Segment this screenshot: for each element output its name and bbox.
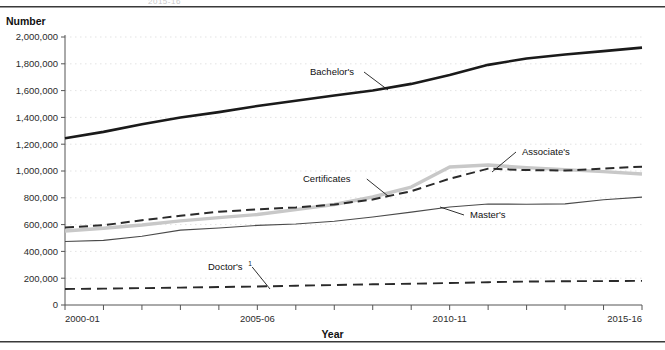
x-axis-tick-label: 2005-06 [240, 313, 275, 324]
x-axis-tick-label: 2010-11 [433, 313, 467, 324]
y-axis-tick-label: 1,200,000 [16, 139, 58, 150]
x-axis-tick-label: 2015-16 [607, 313, 642, 324]
annotations: Bachelor'sCertificatesAssociate'sMaster'… [208, 66, 570, 289]
y-axis-tick-label: 200,000 [24, 273, 58, 284]
series-line-doctor-s [65, 281, 642, 289]
leader-line-master-s [440, 207, 464, 215]
footnote-marker-doctor-s: 1 [248, 260, 252, 267]
series-group [65, 48, 642, 289]
y-axis-tick-label: 600,000 [24, 219, 58, 230]
leader-line-bachelor-s [364, 72, 388, 90]
series-label-master-s: Master's [470, 209, 506, 220]
series-line-bachelor-s [65, 48, 642, 139]
y-axis-tick-label: 2,000,000 [16, 31, 58, 42]
line-chart: 0200,000400,000600,000800,0001,000,0001,… [0, 0, 665, 350]
y-axis-tick-label: 0 [53, 299, 58, 310]
footer-divider-rule [0, 341, 665, 343]
y-axis-tick-label: 1,400,000 [16, 112, 58, 123]
y-axis-tick-label: 1,800,000 [16, 58, 58, 69]
series-label-certificates: Certificates [303, 173, 351, 184]
series-line-associate-s [65, 167, 642, 228]
x-axis-title: Year [0, 328, 665, 340]
y-axis-tick-label: 1,000,000 [16, 165, 58, 176]
y-axis-tick-label: 400,000 [24, 246, 58, 257]
series-label-associate-s: Associate's [522, 146, 570, 157]
y-axis-tick-label: 1,600,000 [16, 85, 58, 96]
leader-line-certificates [367, 179, 388, 196]
y-axis: 0200,000400,000600,000800,0001,000,0001,… [16, 31, 65, 310]
y-axis-tick-label: 800,000 [24, 192, 58, 203]
x-axis-tick-label: 2000-01 [65, 313, 100, 324]
series-label-bachelor-s: Bachelor's [310, 66, 354, 77]
series-label-doctor-s: Doctor's [208, 261, 243, 272]
x-axis: 2000-012005-062010-112015-16 [65, 305, 642, 324]
